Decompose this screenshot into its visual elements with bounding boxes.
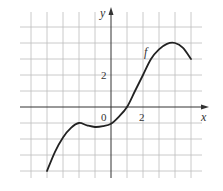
axes <box>20 7 209 178</box>
y-axis-label: y <box>99 6 106 20</box>
origin-label: 0 <box>101 111 107 123</box>
x-axis-label: x <box>200 110 207 124</box>
x-tick-label-2: 2 <box>139 111 145 123</box>
curve-label-f: f <box>144 45 149 59</box>
function-graph: y x 0 2 2 f <box>0 0 223 191</box>
y-tick-label-2: 2 <box>101 69 107 81</box>
